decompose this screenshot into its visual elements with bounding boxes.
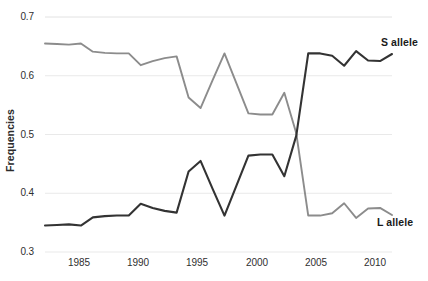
- y-tick-label-0.4: 0.4: [8, 187, 34, 198]
- x-tick-label-1995: 1995: [177, 257, 217, 268]
- series-line-l-allele: [45, 51, 392, 225]
- series-label-l-allele: L allele: [377, 216, 413, 228]
- chart-plot-area: [0, 0, 428, 281]
- series-label-s-allele: S allele: [381, 36, 418, 48]
- x-tick-label-1985: 1985: [59, 257, 99, 268]
- series-line-s-allele: [45, 43, 392, 217]
- y-tick-label-0.6: 0.6: [8, 70, 34, 81]
- y-tick-label-0.5: 0.5: [8, 129, 34, 140]
- x-tick-label-2010: 2010: [355, 257, 395, 268]
- frequencies-line-chart: Frequencies 0.7 0.6 0.5 0.4 0.3 1985 199…: [0, 0, 428, 281]
- x-tick-label-2005: 2005: [296, 257, 336, 268]
- x-tick-label-1990: 1990: [118, 257, 158, 268]
- y-tick-label-0.3: 0.3: [8, 246, 34, 257]
- x-tick-label-2000: 2000: [237, 257, 277, 268]
- y-tick-label-0.7: 0.7: [8, 11, 34, 22]
